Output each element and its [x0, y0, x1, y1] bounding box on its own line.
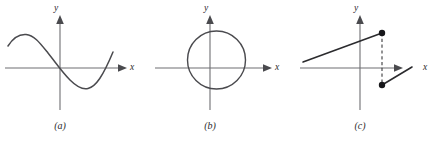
x-axis-arrow-icon	[263, 64, 272, 72]
circle-graph	[188, 31, 246, 89]
panel-c: y x (c)	[290, 0, 436, 141]
y-axis-label: y	[204, 4, 208, 14]
panel-b: y x (b)	[145, 0, 291, 141]
panel-b-caption: (b)	[190, 121, 230, 131]
panel-a-graph	[0, 0, 146, 141]
panel-c-caption: (c)	[340, 121, 380, 131]
panel-a: y x (a)	[0, 0, 146, 141]
x-axis-label: x	[275, 63, 279, 73]
lower-endpoint-dot	[379, 82, 385, 88]
vertical-line-test-figure: y x (a) y x (b)	[0, 0, 436, 141]
x-axis-arrow-icon	[118, 64, 127, 72]
panel-b-graph	[145, 0, 291, 141]
upper-line-segment	[303, 33, 382, 62]
x-axis-label: x	[423, 63, 427, 73]
x-axis-label: x	[130, 63, 134, 73]
y-axis-label: y	[354, 4, 358, 14]
y-axis-arrow-icon	[206, 15, 214, 24]
panel-a-caption: (a)	[40, 121, 80, 131]
x-axis-arrow-icon	[394, 64, 403, 72]
y-axis-label: y	[54, 4, 58, 14]
y-axis-arrow-icon	[356, 15, 364, 24]
upper-endpoint-dot	[379, 30, 385, 36]
y-axis-arrow-icon	[56, 15, 64, 24]
